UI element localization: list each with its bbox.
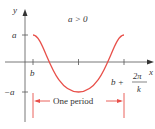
x-axis-label: x: [148, 67, 153, 77]
label-neg-a: −a: [4, 87, 15, 97]
condition-label: a > 0: [68, 14, 88, 24]
period-label: One period: [53, 96, 94, 106]
y-axis-arrow-icon: [23, 9, 28, 16]
label-b: b: [30, 68, 35, 78]
x-axis-arrow-icon: [147, 60, 154, 65]
cosine-graph: y x a > 0 a −a b b + 2π k One period: [0, 0, 155, 129]
period-bracket: One period: [33, 93, 124, 118]
label-2pi: 2π: [133, 71, 142, 81]
label-k: k: [137, 84, 141, 94]
left-arrow-icon: [34, 99, 40, 103]
ticks: [22, 35, 124, 92]
y-axis-label: y: [12, 5, 17, 15]
right-arrow-icon: [117, 99, 123, 103]
label-b-plus: b +: [111, 77, 124, 87]
label-a: a: [12, 30, 17, 40]
